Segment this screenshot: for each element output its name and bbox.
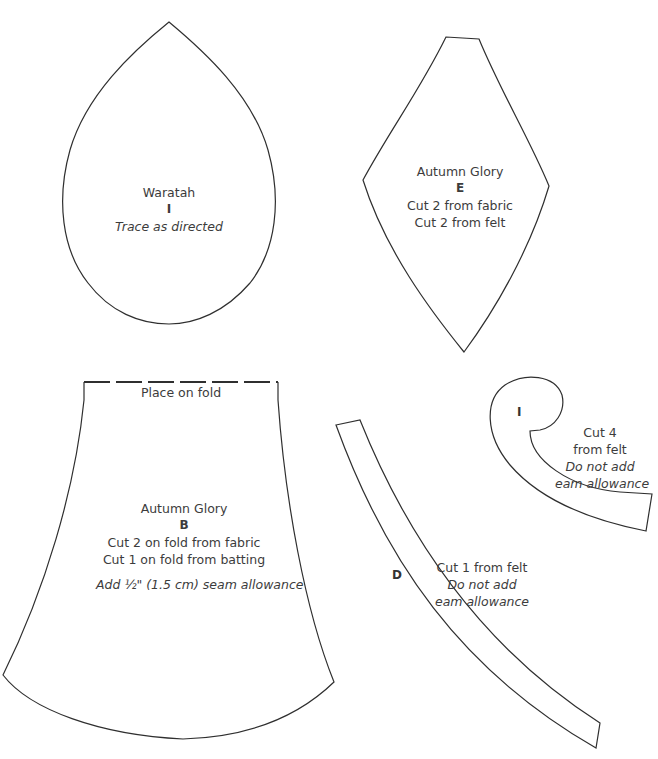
strip-d-label: Cut 1 from felt Do not add eam allowance [432, 559, 532, 610]
curl-i-line1: Cut 4 [555, 424, 645, 441]
autumn-glory-b-seam-note: Add ½" (1.5 cm) seam allowance [96, 576, 272, 593]
strip-d-line1: Cut 1 from felt [432, 559, 532, 576]
curl-i-line4: eam allowance [555, 475, 645, 492]
autumn-glory-e-line2: Cut 2 from felt [395, 214, 525, 231]
autumn-glory-b-letter: B [96, 517, 272, 534]
waratah-letter: I [100, 201, 238, 218]
strip-d-letter: D [392, 568, 402, 582]
curl-i-label: Cut 4 from felt Do not add eam allowance [555, 424, 645, 492]
autumn-glory-e-name: Autumn Glory [395, 163, 525, 180]
strip-d-line3: eam allowance [432, 593, 532, 610]
autumn-glory-b-line1: Cut 2 on fold from fabric [96, 534, 272, 551]
autumn-glory-e-label: Autumn Glory E Cut 2 from fabric Cut 2 f… [395, 163, 525, 231]
pattern-outlines [0, 0, 658, 759]
waratah-outline [63, 22, 276, 324]
curl-i-letter: I [517, 405, 521, 419]
curl-i-line2: from felt [555, 441, 645, 458]
autumn-glory-b-label: Autumn Glory B Cut 2 on fold from fabric… [96, 500, 272, 593]
curl-i-line3: Do not add [555, 458, 645, 475]
fold-label: Place on fold [131, 384, 231, 401]
waratah-instruction: Trace as directed [100, 218, 238, 235]
waratah-label: Waratah I Trace as directed [100, 184, 238, 235]
autumn-glory-b-line2: Cut 1 on fold from batting [96, 551, 272, 568]
autumn-glory-e-line1: Cut 2 from fabric [395, 197, 525, 214]
autumn-glory-e-letter: E [395, 180, 525, 197]
autumn-glory-b-name: Autumn Glory [96, 500, 272, 517]
strip-d-line2: Do not add [432, 576, 532, 593]
waratah-name: Waratah [100, 184, 238, 201]
